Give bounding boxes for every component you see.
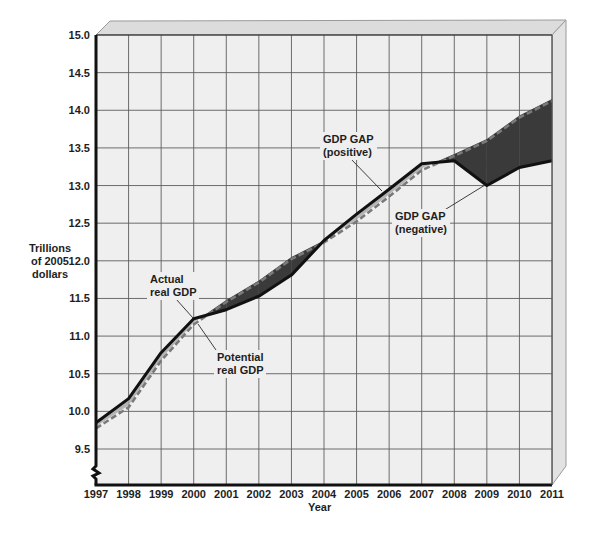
annotation-gdp-gap-positive: GDP GAP (positive) bbox=[320, 132, 377, 160]
x-tick-label: 2003 bbox=[279, 488, 303, 500]
y-tick-label: 13.5 bbox=[69, 142, 90, 154]
y-axis-label: Trillions of 2005 dollars bbox=[22, 242, 78, 281]
x-tick-label: 2006 bbox=[377, 488, 401, 500]
annotation-gdp-gap-negative: GDP GAP (negative) bbox=[392, 209, 450, 237]
x-tick-label: 2008 bbox=[442, 488, 466, 500]
x-tick-label: 2010 bbox=[507, 488, 531, 500]
x-tick-label: 1999 bbox=[149, 488, 173, 500]
gdp-chart-plot: 9.510.010.511.011.512.012.513.013.514.01… bbox=[0, 0, 594, 534]
annotation-line: (positive) bbox=[323, 146, 374, 159]
y-tick-label: 15.0 bbox=[69, 29, 90, 41]
y-tick-label: 9.5 bbox=[75, 443, 90, 455]
x-tick-label: 2011 bbox=[540, 488, 564, 500]
x-tick-label: 2002 bbox=[247, 488, 271, 500]
y-axis-label-line: of 2005 bbox=[22, 255, 78, 268]
y-tick-label: 11.0 bbox=[69, 330, 90, 342]
frame-side-face bbox=[552, 20, 566, 485]
gdp-gap-chart-figure: 9.510.010.511.011.512.012.513.013.514.01… bbox=[0, 0, 594, 534]
y-axis-label-line: Trillions bbox=[22, 242, 78, 255]
x-tick-label: 2000 bbox=[181, 488, 205, 500]
y-tick-label: 14.5 bbox=[69, 67, 90, 79]
annotation-line: real GDP bbox=[150, 286, 196, 299]
x-tick-label: 2001 bbox=[214, 488, 238, 500]
annotation-line: (negative) bbox=[395, 223, 447, 236]
x-tick-label: 2007 bbox=[409, 488, 433, 500]
x-tick-label: 2004 bbox=[312, 488, 337, 500]
annotation-actual-real-gdp: Actual real GDP bbox=[147, 272, 199, 300]
annotation-potential-real-gdp: Potential real GDP bbox=[214, 350, 266, 378]
annotation-line: GDP GAP bbox=[395, 210, 447, 223]
y-axis-label-line: dollars bbox=[22, 268, 78, 281]
x-tick-label: 1998 bbox=[116, 488, 140, 500]
y-tick-label: 14.0 bbox=[69, 104, 90, 116]
x-axis-label: Year bbox=[308, 501, 331, 514]
annotation-line: Actual bbox=[150, 273, 196, 286]
x-tick-label: 2005 bbox=[344, 488, 368, 500]
y-tick-label: 10.0 bbox=[69, 405, 90, 417]
annotation-line: Potential bbox=[217, 351, 263, 364]
x-tick-labels: 1997199819992000200120022003200420052006… bbox=[84, 488, 564, 500]
frame-top-face bbox=[96, 20, 566, 35]
x-tick-label: 1997 bbox=[84, 488, 108, 500]
annotation-line: real GDP bbox=[217, 364, 263, 377]
y-tick-label: 11.5 bbox=[69, 292, 90, 304]
y-tick-label: 10.5 bbox=[69, 368, 90, 380]
y-tick-label: 13.0 bbox=[69, 180, 90, 192]
annotation-line: GDP GAP bbox=[323, 133, 374, 146]
y-tick-label: 12.5 bbox=[69, 217, 90, 229]
x-tick-label: 2009 bbox=[475, 488, 499, 500]
